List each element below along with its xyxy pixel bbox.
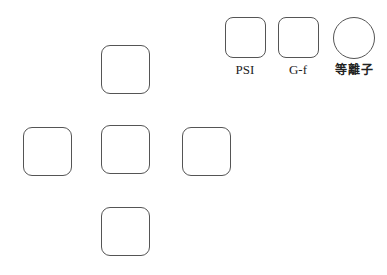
dpad-down-button[interactable] [101,207,150,256]
psi-label: PSI [215,63,275,77]
dpad-left-button[interactable] [23,127,72,176]
plasma-label: 等離子 [324,63,384,77]
dpad-right-button[interactable] [182,127,231,176]
plasma-button[interactable] [333,17,375,59]
dpad-up-button[interactable] [101,45,150,94]
g-f-button[interactable] [278,17,319,58]
g-f-label: G-f [268,63,328,77]
dpad-center-button[interactable] [101,125,150,174]
psi-button[interactable] [225,17,266,58]
